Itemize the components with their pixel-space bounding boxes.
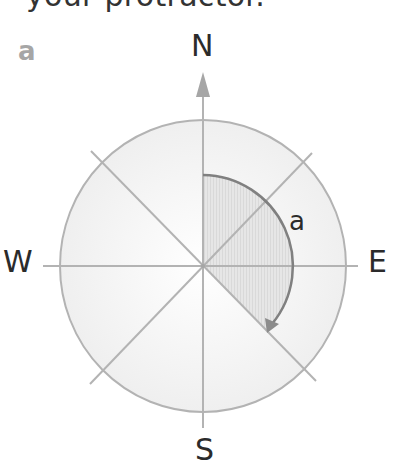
center-point	[201, 264, 205, 268]
north-label: N	[191, 28, 213, 63]
east-label: E	[368, 244, 387, 279]
west-label: W	[3, 244, 33, 279]
north-arrow-icon	[196, 72, 210, 97]
angle-label: a	[289, 206, 305, 236]
south-label: S	[195, 432, 214, 464]
